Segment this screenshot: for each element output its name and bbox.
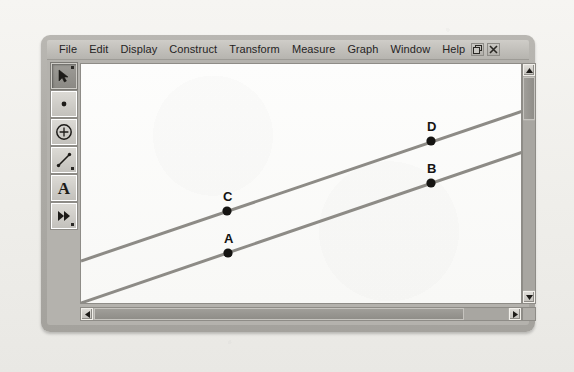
scroll-up-button[interactable] [523,64,535,76]
scroll-left-button[interactable] [81,308,93,320]
point-d[interactable] [426,136,435,145]
menu-item-graph[interactable]: Graph [341,42,384,57]
arrow-tool-corner-dot [71,66,74,69]
point-label-d[interactable]: D [427,119,436,134]
horizontal-scrollbar[interactable] [80,307,522,321]
point-c[interactable] [222,206,231,215]
text-tool[interactable]: A [51,175,77,201]
point-label-b[interactable]: B [427,161,436,176]
menu-item-help[interactable]: Help [436,42,471,57]
triangle-right-icon [513,311,518,318]
menu-item-edit[interactable]: Edit [83,42,114,57]
point-a[interactable] [223,248,232,257]
point-label-c[interactable]: C [223,189,232,204]
menu-item-file[interactable]: File [53,42,83,57]
scroll-right-button[interactable] [509,308,521,320]
menu-item-display[interactable]: Display [114,42,163,57]
menu-item-window[interactable]: Window [384,42,436,57]
arrow-icon [55,67,73,85]
window-inner-frame: File Edit Display Construct Transform Me… [47,40,529,325]
menu-item-construct[interactable]: Construct [163,42,223,57]
vertical-scrollbar[interactable] [522,63,536,304]
scrollbar-corner [522,307,536,321]
letter-a-icon: A [54,178,74,198]
svg-text:A: A [58,179,71,198]
triangle-down-icon [526,295,533,300]
point-b[interactable] [426,178,435,187]
custom-transform-tool[interactable] [51,203,77,229]
window-controls [471,43,505,56]
point-icon [55,95,73,113]
sketch-canvas[interactable]: CDAB [80,63,522,304]
restore-button[interactable] [471,43,484,56]
transform-tool-corner-dot [71,223,74,226]
point-label-a[interactable]: A [224,231,233,246]
geometry-figure [81,64,521,303]
vertical-scroll-track[interactable] [523,121,535,290]
horizontal-scroll-thumb[interactable] [94,308,464,320]
triangle-up-icon [526,68,533,73]
sketchpad-window: File Edit Display Construct Transform Me… [41,35,535,332]
point-tool[interactable] [51,91,77,117]
triangle-left-icon [85,311,90,318]
tool-palette: A [51,63,77,229]
close-icon [489,45,498,54]
lower-line[interactable] [81,152,521,303]
compass-circle-tool[interactable] [51,119,77,145]
upper-line[interactable] [81,111,521,261]
menu-item-transform[interactable]: Transform [223,42,286,57]
horizontal-scroll-track[interactable] [464,308,508,320]
selection-arrow-tool[interactable] [51,63,77,89]
menu-bar: File Edit Display Construct Transform Me… [47,40,529,60]
circle-icon [54,122,74,142]
restore-icon [473,45,482,54]
scroll-down-button[interactable] [523,291,535,303]
vertical-scroll-thumb[interactable] [523,77,535,120]
menu-item-measure[interactable]: Measure [286,42,342,57]
straightedge-tool-corner-dot [71,167,74,170]
close-button[interactable] [487,43,500,56]
straightedge-tool[interactable] [51,147,77,173]
